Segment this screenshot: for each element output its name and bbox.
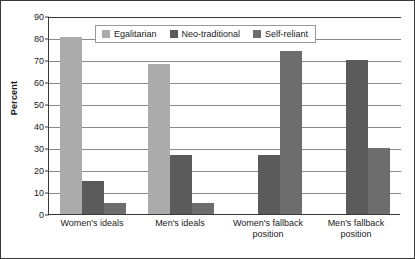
bar-self-reliant — [104, 203, 126, 214]
bar-group — [225, 16, 313, 214]
legend-item: Egalitarian — [102, 29, 157, 39]
y-axis-tick-label: 80 — [16, 34, 44, 44]
bar-chart-figure: Percent 0102030405060708090 Women's idea… — [0, 0, 415, 259]
bar-group — [137, 16, 225, 214]
x-axis-category-label: Men's fallbackposition — [312, 218, 400, 240]
legend-item: Neo-traditional — [170, 29, 241, 39]
y-axis-tick-label: 60 — [16, 78, 44, 88]
y-axis-tick-label: 0 — [16, 210, 44, 220]
bar-self-reliant — [192, 203, 214, 214]
bar-self-reliant — [280, 51, 302, 214]
x-axis-label-line: Men's ideals — [136, 218, 224, 229]
y-axis-tick-label: 20 — [16, 166, 44, 176]
x-axis-category-label: Women's fallbackposition — [224, 218, 312, 240]
y-axis-tick-label: 10 — [16, 188, 44, 198]
x-axis-category-label: Women's ideals — [48, 218, 136, 240]
legend-swatch-icon — [102, 30, 110, 38]
x-axis-labels: Women's idealsMen's idealsWomen's fallba… — [48, 218, 400, 240]
y-axis-tick-label: 30 — [16, 144, 44, 154]
plot-area: 0102030405060708090 — [48, 17, 400, 215]
bar-neo-traditional — [258, 155, 280, 214]
y-axis-tick-label: 70 — [16, 56, 44, 66]
y-axis-tick-label: 40 — [16, 122, 44, 132]
legend-label: Neo-traditional — [182, 29, 241, 39]
legend-swatch-icon — [253, 30, 261, 38]
y-axis-tick-label: 90 — [16, 12, 44, 22]
legend-label: Egalitarian — [114, 29, 157, 39]
bar-neo-traditional — [170, 155, 192, 214]
chart-legend: EgalitarianNeo-traditionalSelf-reliant — [95, 25, 316, 43]
bar-neo-traditional — [82, 181, 104, 214]
bar-egalitarian — [60, 37, 82, 214]
legend-label: Self-reliant — [265, 29, 308, 39]
legend-item: Self-reliant — [253, 29, 308, 39]
x-axis-label-line: Women's ideals — [48, 218, 136, 229]
y-axis-tick-label: 50 — [16, 100, 44, 110]
bar-group — [313, 16, 401, 214]
bar-group — [49, 16, 137, 214]
x-axis-category-label: Men's ideals — [136, 218, 224, 240]
x-axis-label-line: Women's fallback — [224, 218, 312, 229]
x-axis-label-line: position — [312, 229, 400, 240]
bar-groups — [49, 16, 401, 214]
legend-swatch-icon — [170, 30, 178, 38]
x-axis-label-line: position — [224, 229, 312, 240]
x-axis-label-line: Men's fallback — [312, 218, 400, 229]
bar-neo-traditional — [346, 60, 368, 214]
y-axis-tickmark — [45, 215, 49, 216]
bar-egalitarian — [148, 64, 170, 214]
bar-self-reliant — [368, 148, 390, 214]
